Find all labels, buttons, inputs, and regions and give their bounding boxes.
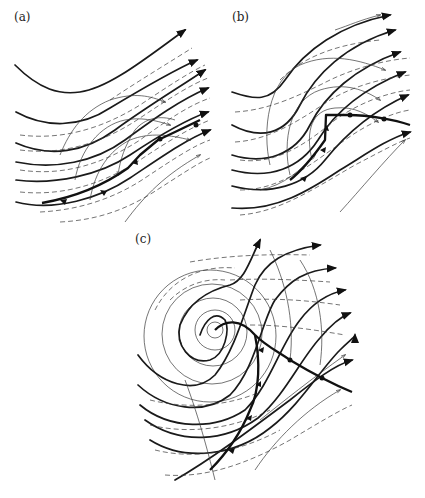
panel-c-contours	[138, 240, 355, 480]
panel-b-streamlines	[260, 15, 405, 212]
panel-b	[232, 15, 410, 215]
panel-b-isotherms	[235, 40, 410, 215]
cyclone-diagram	[0, 0, 425, 498]
panel-c	[138, 240, 355, 480]
panel-b-contours	[232, 15, 410, 208]
panel-a	[15, 30, 210, 222]
panel-a-streamlines	[60, 96, 200, 222]
panel-b-front	[290, 115, 410, 180]
panel-c-streamlines	[185, 250, 345, 480]
panel-a-isotherms	[20, 48, 210, 222]
